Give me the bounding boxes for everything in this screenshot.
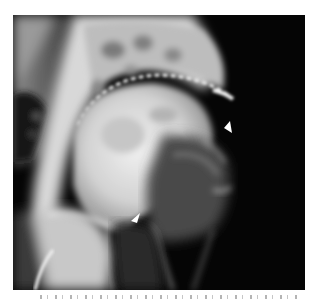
radiograph-image bbox=[13, 15, 305, 290]
caption-glyph-tops bbox=[40, 295, 300, 299]
radiograph-svg bbox=[13, 15, 305, 290]
figure-caption-truncated bbox=[0, 292, 318, 299]
